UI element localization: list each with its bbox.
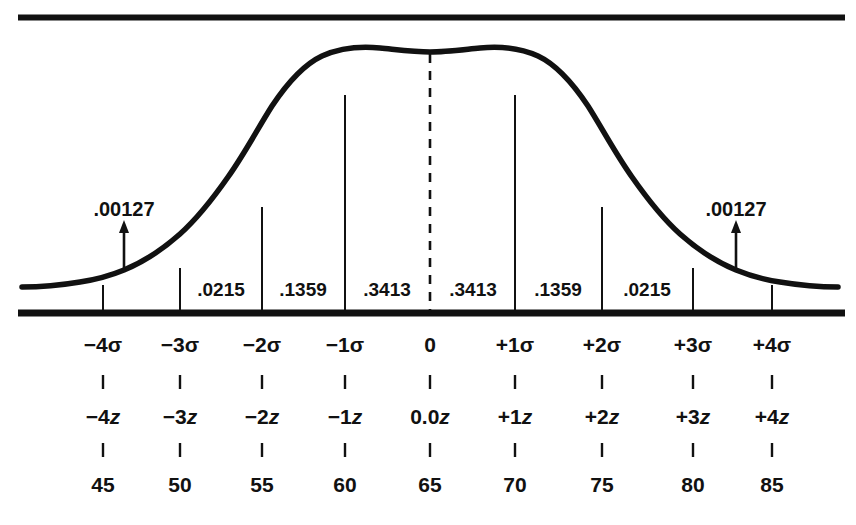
raw-tick-label-1: 50 — [168, 473, 191, 496]
sigma-tick-label-8: +4σ — [753, 333, 791, 356]
left-tail-label: .00127 — [93, 198, 154, 220]
raw-tick-label-7: 80 — [681, 473, 704, 496]
z-tick-label-1: −3z — [163, 405, 198, 428]
z-tick-label-6: +2z — [585, 405, 620, 428]
sigma-tick-label-0: −4σ — [84, 333, 122, 356]
raw-tick-label-5: 70 — [503, 473, 526, 496]
tick-row-lower — [103, 443, 772, 457]
area-label-pos2-pos3: .0215 — [623, 279, 671, 300]
z-tick-label-7: +3z — [676, 405, 711, 428]
normal-distribution-figure: .00127 .00127 .0215 .1359 .3413 .3413 .1… — [0, 0, 856, 525]
z-tick-label-2: −2z — [245, 405, 280, 428]
sigma-tick-label-1: −3σ — [161, 333, 199, 356]
sigma-tick-label-4: 0 — [424, 333, 436, 356]
area-label-pos1-pos2: .1359 — [534, 279, 582, 300]
normal-curve — [22, 47, 838, 287]
z-tick-label-5: +1z — [498, 405, 533, 428]
z-tick-label-0: −4z — [86, 405, 121, 428]
sigma-tick-label-5: +1σ — [496, 333, 534, 356]
raw-tick-label-2: 55 — [250, 473, 274, 496]
standard-deviation-scale: −4σ −3σ −2σ −1σ 0 +1σ +2σ +3σ +4σ — [84, 333, 791, 356]
right-tail-arrow-icon — [731, 220, 741, 272]
z-tick-label-4: 0.0z — [410, 405, 450, 428]
raw-tick-label-6: 75 — [590, 473, 614, 496]
raw-score-scale: 45 50 55 60 65 70 75 80 85 — [91, 473, 784, 496]
tick-row-upper — [103, 375, 772, 389]
right-tail-label: .00127 — [705, 198, 766, 220]
raw-tick-label-0: 45 — [91, 473, 115, 496]
left-tail-arrow-icon — [119, 220, 129, 272]
area-label-neg1-zero: .3413 — [363, 279, 411, 300]
sigma-tick-label-2: −2σ — [243, 333, 281, 356]
raw-tick-label-8: 85 — [760, 473, 784, 496]
sigma-tick-label-6: +2σ — [583, 333, 621, 356]
raw-tick-label-3: 60 — [333, 473, 356, 496]
sigma-tick-label-3: −1σ — [326, 333, 364, 356]
z-tick-label-3: −1z — [328, 405, 363, 428]
area-label-zero-pos1: .3413 — [449, 279, 497, 300]
z-tick-label-8: +4z — [755, 405, 790, 428]
raw-tick-label-4: 65 — [418, 473, 442, 496]
area-label-neg3-neg2: .0215 — [197, 279, 245, 300]
sigma-tick-label-7: +3σ — [674, 333, 712, 356]
area-label-neg2-neg1: .1359 — [279, 279, 327, 300]
z-score-scale: −4z −3z −2z −1z 0.0z +1z +2z +3z +4z — [86, 405, 790, 428]
